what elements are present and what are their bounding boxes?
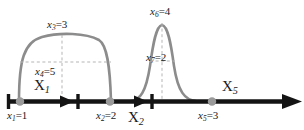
label-X2-var: X [128,109,139,125]
label-x5: x5=3 [198,110,218,123]
label-x5-value: =3 [207,109,219,121]
label-x2-value: =2 [105,109,117,121]
label-X1-var: X [34,77,45,93]
label-x1: x1=1 [7,110,27,123]
label-x7-value: =2 [155,51,167,63]
label-X1-sub: 1 [45,84,50,95]
label-x3-value: =3 [56,18,68,30]
label-X2-sub: 2 [139,116,144,127]
label-x1-value: =1 [16,109,28,121]
label-x3: x3=3 [47,19,67,32]
label-x2: x2=2 [96,110,116,123]
point-dot-x1 [16,97,24,105]
axis-arrowhead-segment-2 [134,96,148,108]
left-bump-curve [19,34,111,101]
label-X1: X1 [34,78,50,95]
label-X5-sub: 5 [233,85,238,96]
label-x6: x6=4 [150,6,170,19]
axis-arrowhead-end [282,94,302,109]
point-dot-x2 [106,97,114,105]
label-X2: X2 [128,110,144,127]
label-x7: x7=2 [146,52,166,65]
point-dot-x5 [208,97,216,105]
label-X5: X5 [222,79,238,96]
label-X5-var: X [222,78,233,94]
label-x4-value: =5 [44,65,56,77]
label-x6-value: =4 [159,5,171,17]
axis-arrowhead-segment-1 [60,96,74,108]
diagram-canvas: x3=3 x4=5 x6=4 x7=2 X1 X2 X5 x1=1 x2=2 x… [0,0,304,130]
